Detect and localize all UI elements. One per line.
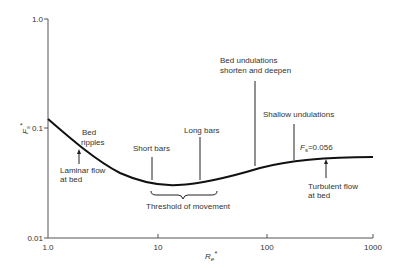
y-axis: [44, 19, 48, 238]
x-tick-label: 1000: [364, 243, 382, 252]
threshold-of-movement-label: Threshold of movement: [146, 202, 231, 211]
laminar-flow-arrow-icon: [77, 149, 81, 164]
y-tick-label: 0.01: [27, 234, 43, 243]
turbulent-flow-arrow-icon: [324, 159, 328, 178]
x-tick-label: 10: [154, 243, 163, 252]
shields-diagram-chart: 1.0 0.1 0.01 1.0 10 100 1000 Re* Fs* Bed…: [0, 0, 398, 269]
fs-value-label: Fs=0.056: [300, 143, 333, 153]
laminar-flow-label: Laminar flow at bed: [60, 166, 108, 184]
turbulent-flow-label: Turbulent flow at bed: [308, 182, 360, 200]
y-axis-title: Fs*: [19, 123, 31, 134]
long-bars-label: Long bars: [184, 126, 220, 135]
x-tick-label: 1.0: [42, 243, 54, 252]
x-tick-label: 100: [260, 243, 274, 252]
shallow-undulations-label: Shallow undulations: [263, 110, 334, 119]
x-axis-title: Re*: [205, 250, 217, 262]
short-bars-label: Short bars: [133, 144, 170, 153]
y-tick-label: 1.0: [32, 15, 44, 24]
y-tick-label: 0.1: [32, 124, 44, 133]
bed-undulations-label: Bed undulations shorten and deepen: [220, 56, 291, 75]
x-axis: [48, 234, 373, 238]
bed-ripples-label: Bed ripples: [81, 128, 105, 147]
threshold-brace-icon: [151, 191, 217, 199]
